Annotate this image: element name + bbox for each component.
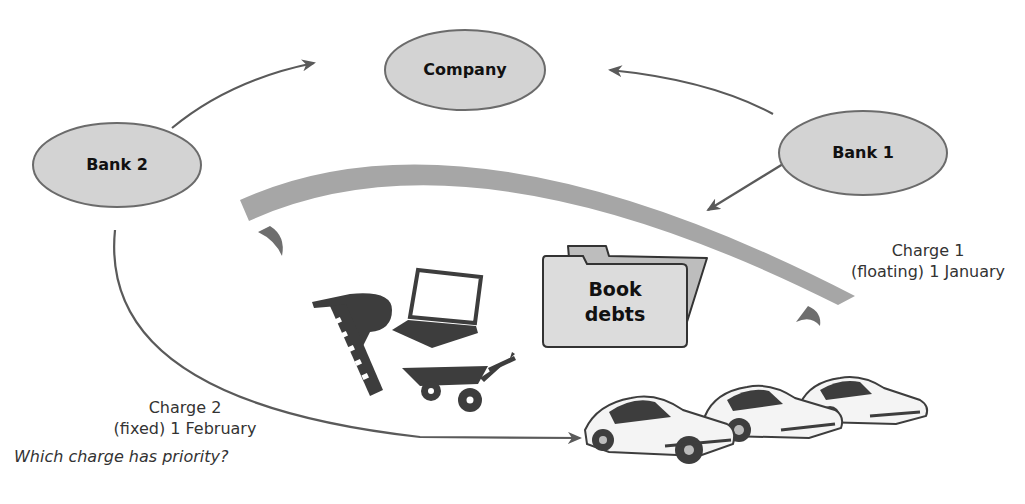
laptop-icon	[392, 270, 481, 348]
charge1-caption: Charge 1 (floating) 1 January	[838, 240, 1018, 282]
arrow-bank1-to-band	[708, 164, 783, 210]
arrow-bank1-to-company	[610, 70, 773, 114]
charge2-detail: (fixed) 1 February	[100, 418, 270, 439]
company-label: Company	[385, 60, 545, 79]
charge1-detail: (floating) 1 January	[838, 261, 1018, 282]
charge2-caption: Charge 2 (fixed) 1 February	[100, 397, 270, 439]
book-debts-line2: debts	[543, 302, 687, 327]
priority-question: Which charge has priority?	[14, 447, 228, 466]
charge2-title: Charge 2	[100, 397, 270, 418]
nail-gun-icon	[312, 293, 392, 396]
book-debts-label: Book debts	[543, 277, 687, 327]
book-debts-line1: Book	[543, 277, 687, 302]
bank2-label: Bank 2	[33, 155, 201, 174]
bank1-label: Bank 1	[779, 143, 947, 162]
arrow-bank2-to-company	[172, 63, 314, 128]
charge1-title: Charge 1	[838, 240, 1018, 261]
wheelbarrow-icon	[402, 352, 516, 412]
